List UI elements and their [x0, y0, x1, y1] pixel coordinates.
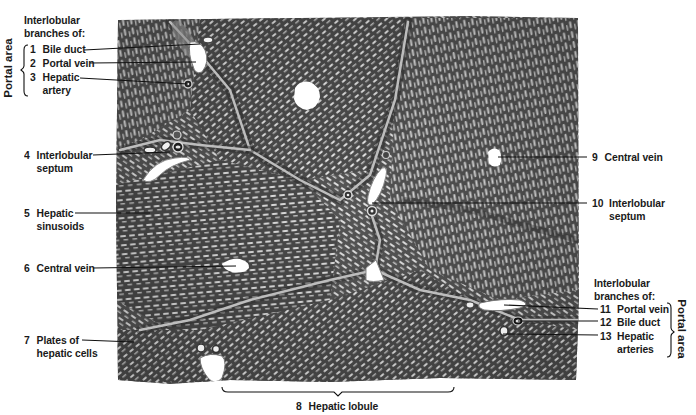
label-6-central-vein: 6Central vein — [24, 262, 95, 275]
label-7-plates-of-hepatic-cells: 7Plates of hepatic cells — [24, 334, 98, 360]
label-3-hepatic-artery: 3Hepatic artery — [30, 71, 79, 97]
label-2-portal-vein: 2Portal vein — [30, 57, 95, 70]
histology-figure: Interlobular branches of: Portal area 1B… — [0, 0, 696, 415]
bottom-right-heading: Interlobular branches of: — [594, 277, 655, 303]
portal-area-label-right: Portal area — [676, 299, 688, 358]
label-13-hepatic-arteries: 13Hepatic arteries — [600, 330, 654, 356]
label-4-interlobular-septum: 4Interlobular septum — [24, 149, 92, 175]
portal-area-label-left: Portal area — [2, 38, 14, 97]
label-1-bile-duct: 1Bile duct — [30, 43, 86, 56]
label-12-bile-duct: 12Bile duct — [600, 316, 660, 329]
label-9-central-vein: 9Central vein — [592, 151, 663, 164]
label-8-hepatic-lobule: 8Hepatic lobule — [296, 400, 378, 413]
label-5-hepatic-sinusoids: 5Hepatic sinusoids — [24, 207, 84, 233]
top-left-heading: Interlobular branches of: — [24, 14, 85, 40]
label-10-interlobular-septum: 10Interlobular septum — [592, 197, 665, 223]
label-11-portal-vein: 11Portal vein — [600, 303, 669, 316]
